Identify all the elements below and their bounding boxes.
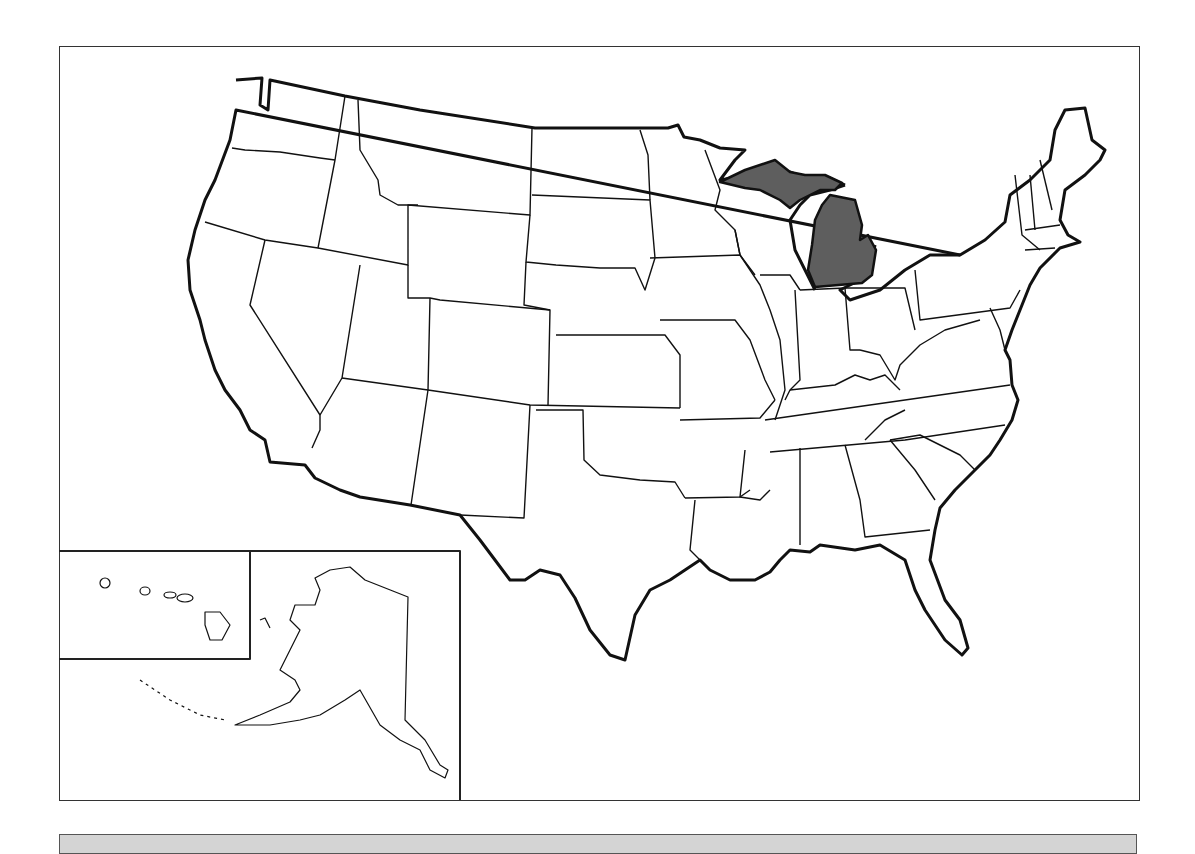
alaska (140, 567, 448, 778)
hawaii-inset-frame (59, 551, 250, 659)
michigan-upper-peninsula (720, 160, 842, 208)
michigan-lower-peninsula (808, 195, 876, 287)
bottom-bar (59, 834, 1137, 854)
hawaii (100, 578, 230, 640)
inset-frame (59, 551, 460, 800)
